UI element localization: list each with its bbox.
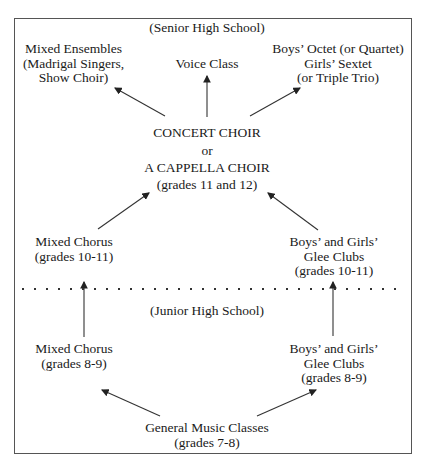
- node-concert-choir-or: or: [187, 144, 227, 159]
- node-glee-clubs-junior: Boys’ and Girls’ Glee Clubs (grades 8-9): [279, 342, 389, 386]
- node-a-cappella-choir: A CAPPELLA CHOIR: [132, 161, 282, 176]
- section-senior-high: (Senior High School): [147, 21, 267, 36]
- node-small-groups: Boys’ Octet (or Quartet) Girls’ Sextet (…: [263, 42, 413, 86]
- node-mixed-chorus-junior: Mixed Chorus (grades 8-9): [24, 342, 124, 371]
- node-mixed-chorus-senior: Mixed Chorus (grades 10-11): [24, 235, 124, 264]
- node-concert-choir-grades: (grades 11 and 12): [147, 178, 267, 193]
- arrow-mixed-chorus-to-choir: [98, 193, 149, 229]
- node-glee-clubs-senior: Boys’ and Girls’ Glee Clubs (grades 10-1…: [279, 235, 389, 279]
- node-voice-class: Voice Class: [167, 57, 247, 72]
- section-junior-high: (Junior High School): [147, 304, 267, 319]
- arrow-glee-to-choir: [268, 193, 318, 230]
- node-general-music: General Music Classes (grades 7-8): [137, 421, 277, 450]
- arrow-general-to-glee: [257, 390, 316, 416]
- arrow-to-mixed-ensembles: [115, 88, 165, 116]
- node-concert-choir: CONCERT CHOIR: [137, 126, 277, 141]
- arrow-to-small-groups: [250, 88, 300, 116]
- arrow-general-to-mixed: [102, 390, 160, 416]
- node-mixed-ensembles: Mixed Ensembles (Madrigal Singers, Show …: [16, 42, 131, 86]
